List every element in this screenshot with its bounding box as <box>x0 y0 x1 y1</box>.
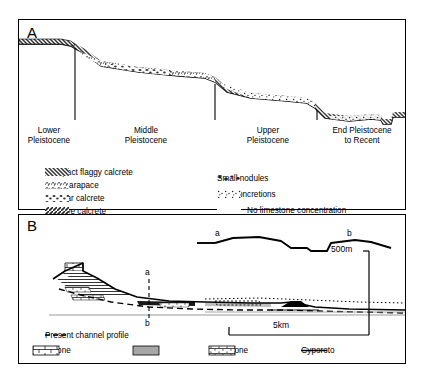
stage-label-upper-pleistocene: Upper Pleistocene <box>227 126 309 146</box>
legend-item-hard-carapace: Hard carapace <box>45 181 99 191</box>
small-nodules-swatch <box>217 174 241 182</box>
legend-item-compact-flaggy-calcrete: Compact flaggy calcrete <box>45 168 133 178</box>
sandstone-swatch <box>209 346 235 355</box>
panel-a: A <box>18 19 406 210</box>
inset-marker-b: b <box>347 229 352 238</box>
legend-item-present-channel-profile: Present channel profile <box>45 331 129 341</box>
scale-label-500m: 500m <box>331 245 352 254</box>
legend-item-limestone: Limestone <box>33 346 71 356</box>
compact-flaggy-calcrete-swatch <box>45 168 69 176</box>
section-marker-b: b <box>145 319 150 328</box>
legend-item-gyporoto: Gyporoto <box>301 346 335 356</box>
stage-label-lower-pleistocene: Lower Pleistocene <box>21 126 77 146</box>
gyporoto-line-icon <box>301 346 327 355</box>
legend-item-sandstone: Sandstone <box>209 346 248 356</box>
legend-item-soft-concretions: Soft concretions <box>217 190 276 200</box>
panel-b: B <box>18 214 406 364</box>
dashed-line-icon <box>45 331 69 339</box>
soft-concretions-swatch <box>217 190 241 198</box>
scale-label-5km: 5km <box>273 321 289 330</box>
stage-label-end-pleistocene-to-recent: End Pleistocene to Recent <box>319 126 405 146</box>
legend-item-small-nodules: Small nodules <box>217 174 268 184</box>
section-marker-a: a <box>145 268 150 277</box>
marl-swatch <box>133 346 159 355</box>
stage-label-middle-pleistocene: Middle Pleistocene <box>91 126 201 146</box>
inset-profile-line <box>215 237 391 251</box>
inset-marker-a: a <box>215 229 220 238</box>
limestone-swatch <box>33 346 59 355</box>
figure-root: A <box>0 0 423 378</box>
legend-item-nodular-calcrete: Nodular calcrete <box>45 194 105 204</box>
nodular-calcrete-swatch <box>45 194 69 202</box>
hard-carapace-swatch <box>45 181 69 189</box>
legend-item-marl: Marl <box>133 346 149 356</box>
